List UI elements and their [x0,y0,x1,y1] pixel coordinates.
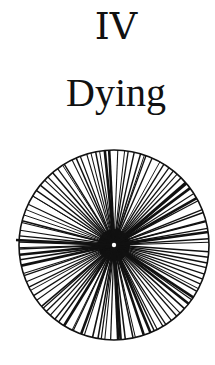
radial-spoke-illustration [0,140,215,355]
chapter-title: Dying [0,70,215,116]
chapter-number: IV [0,4,215,48]
spoke-circle-icon [0,140,215,355]
